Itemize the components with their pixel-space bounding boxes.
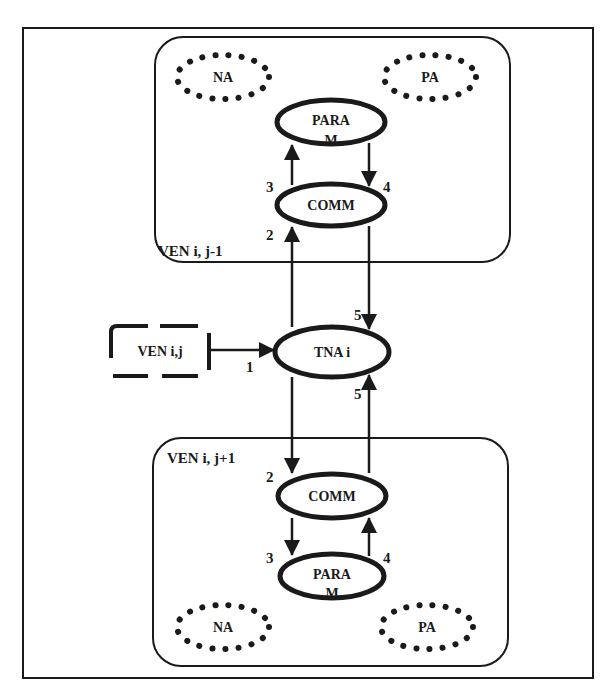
- edge-2-bottom-label: 2: [266, 469, 274, 485]
- group-label: VEN i, j+1: [167, 450, 235, 466]
- group-label: VEN i, j-1: [158, 243, 223, 259]
- edge-5-top-label: 5: [354, 307, 362, 323]
- param-label-line2: M: [324, 133, 337, 148]
- comm-label: COMM: [308, 489, 355, 504]
- external-ven-node: VEN i,j: [111, 326, 209, 376]
- edge-1-label: 1: [246, 359, 254, 375]
- pa-label: PA: [421, 70, 440, 85]
- diagram-canvas: NA PA PARA M COMM VEN i, j-1 3 4 2 5 TNA…: [0, 0, 610, 693]
- pa-label: PA: [418, 620, 437, 635]
- param-label-line1: PARA: [312, 113, 351, 128]
- edge-5-bottom-label: 5: [354, 386, 362, 402]
- ven-ij-label: VEN i,j: [137, 344, 182, 359]
- group-ven-j-minus-1: NA PA PARA M COMM VEN i, j-1: [155, 37, 510, 262]
- param-label-line1: PARA: [313, 567, 352, 582]
- na-label: NA: [213, 70, 234, 85]
- edge-3-top-label: 3: [266, 179, 274, 195]
- edge-4-top-label: 4: [383, 179, 391, 195]
- param-label-line2: M: [325, 586, 338, 601]
- comm-label: COMM: [307, 198, 354, 213]
- na-label: NA: [213, 620, 234, 635]
- edge-2-top-label: 2: [266, 227, 274, 243]
- edge-3-bottom-label: 3: [266, 550, 274, 566]
- edge-4-bottom-label: 4: [383, 550, 391, 566]
- tna-label: TNA i: [314, 345, 350, 360]
- group-ven-j-plus-1: VEN i, j+1 COMM PARA M NA PA: [153, 438, 508, 666]
